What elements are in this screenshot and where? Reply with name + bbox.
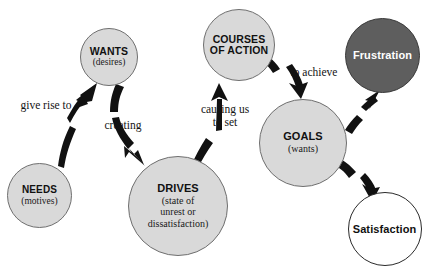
node-needs-title: NEEDS — [22, 185, 57, 196]
node-goals-subtitle: (wants) — [288, 143, 318, 154]
edge-label-causing-us-to-set: causing us to set — [193, 103, 257, 128]
node-courses-of-action-title: COURSES OF ACTION — [210, 34, 268, 57]
node-courses-of-action[interactable]: COURSES OF ACTION — [203, 9, 275, 81]
node-satisfaction[interactable]: Satisfaction — [348, 192, 422, 266]
node-needs[interactable]: NEEDS (motives) — [7, 163, 72, 228]
node-goals[interactable]: GOALS (wants) — [259, 99, 347, 187]
edge-label-to-achieve: to achieve — [280, 66, 348, 79]
edge-label-creating: creating — [92, 119, 154, 132]
node-needs-subtitle: (motives) — [21, 196, 57, 207]
node-frustration[interactable]: Frustration — [345, 18, 420, 93]
node-wants-subtitle: (desires) — [93, 57, 126, 68]
node-satisfaction-title: Satisfaction — [353, 223, 417, 235]
node-drives-subtitle: (state of unrest or dissatisfaction) — [148, 195, 209, 229]
node-wants[interactable]: WANTS (desires) — [80, 28, 138, 86]
node-frustration-title: Frustration — [353, 49, 412, 61]
edge-label-give-rise-to: give rise to — [8, 99, 84, 112]
node-drives[interactable]: DRIVES (state of unrest or dissatisfacti… — [128, 156, 228, 256]
node-drives-title: DRIVES — [157, 183, 199, 195]
arrow-goals-to-frustration — [345, 90, 380, 134]
node-goals-title: GOALS — [283, 131, 323, 143]
diagram-canvas: NEEDS (motives) WANTS (desires) DRIVES (… — [0, 0, 426, 276]
node-wants-title: WANTS — [90, 46, 128, 57]
